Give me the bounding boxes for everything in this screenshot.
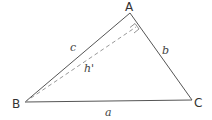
vertex-label-b: B — [12, 97, 20, 111]
altitude-h-prime — [25, 27, 136, 102]
triangle-abc — [25, 13, 192, 102]
side-label-b: b — [162, 44, 169, 57]
vertex-label-c: C — [194, 96, 202, 110]
triangle-diagram: A B C c b a h' — [0, 0, 212, 120]
right-angle-marker — [130, 24, 139, 34]
altitude-label-h-prime: h' — [84, 62, 94, 75]
side-label-a: a — [105, 106, 112, 119]
side-label-c: c — [70, 41, 76, 54]
vertex-label-a: A — [125, 0, 134, 14]
